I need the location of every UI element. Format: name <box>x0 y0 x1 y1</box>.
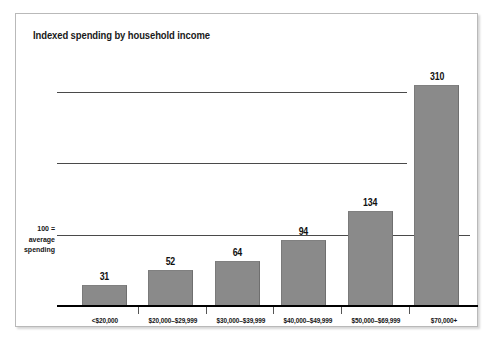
tick-cell <box>274 307 342 314</box>
x-axis-ticks <box>71 307 478 314</box>
category-label: $50,000–$69,999 <box>345 317 407 324</box>
bar-value-label: 52 <box>166 257 175 267</box>
bar-value-label: 64 <box>233 248 242 258</box>
page-title: Indexed spending by household income <box>33 29 210 41</box>
bar-rect <box>348 211 393 307</box>
tick-cell <box>410 307 478 314</box>
bars-group: 31526494134310 <box>71 64 470 307</box>
tick-cell <box>342 307 410 314</box>
bar-rect <box>281 240 326 307</box>
baseline-annotation-line-3: spending <box>19 245 55 256</box>
chart-figure-panel: Indexed spending by household income 100… <box>15 13 478 327</box>
baseline-annotation: 100 = average spending <box>19 224 55 256</box>
bar-value-label: 94 <box>299 227 308 237</box>
baseline-annotation-line-1: 100 = <box>19 224 55 235</box>
bar-group: 52 <box>138 64 205 307</box>
x-axis-category-labels: <$20,000$20,000–$29,999$30,000–$39,999$4… <box>71 317 478 324</box>
bar-rect <box>414 85 459 307</box>
plot-area: 31526494134310 <box>57 64 470 307</box>
bar-value-label: 31 <box>100 272 109 282</box>
category-label: $40,000–$49,999 <box>277 317 339 324</box>
bar-group: 310 <box>404 64 471 307</box>
category-label: <$20,000 <box>74 317 136 324</box>
category-label: $70,000+ <box>413 317 475 324</box>
category-label: $30,000–$39,999 <box>209 317 271 324</box>
bar-group: 134 <box>337 64 404 307</box>
bar-rect <box>148 270 193 307</box>
bar-group: 94 <box>271 64 338 307</box>
bar-value-label: 310 <box>430 72 444 82</box>
tick-cell <box>71 307 139 314</box>
bar-group: 64 <box>204 64 271 307</box>
bar-rect <box>215 261 260 307</box>
category-label: $20,000–$29,999 <box>142 317 204 324</box>
tick-cell <box>139 307 207 314</box>
bar-value-label: 134 <box>363 198 377 208</box>
bar-rect <box>82 285 127 307</box>
bar-group: 31 <box>71 64 138 307</box>
tick-cell <box>207 307 275 314</box>
baseline-annotation-line-2: average <box>19 235 55 246</box>
